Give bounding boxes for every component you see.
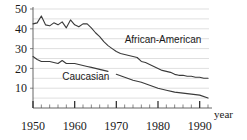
y-tick-label: 50: [15, 2, 27, 16]
series-line-african-american: [33, 16, 208, 78]
x-tick-labels: 19501960197019801990: [21, 119, 212, 133]
x-tick-label: 1990: [188, 119, 212, 133]
series-line-caucasian-segment-2: [116, 74, 208, 98]
data-series: [33, 16, 208, 98]
series-label-caucasian: Caucasian: [62, 71, 109, 82]
x-axis-title: year: [214, 108, 233, 120]
series-label-african-american: African-American: [125, 34, 202, 45]
x-tick-label: 1970: [104, 119, 128, 133]
y-tick-label: 10: [15, 81, 27, 95]
x-tick-label: 1960: [63, 119, 87, 133]
line-chart: 1020304050 19501960197019801990 African-…: [0, 0, 247, 140]
x-tick-label: 1980: [146, 119, 170, 133]
chart-container: 1020304050 19501960197019801990 African-…: [0, 0, 247, 140]
y-tick-label: 20: [15, 62, 27, 76]
y-tick-label: 30: [15, 42, 27, 56]
y-axis: [30, 7, 33, 108]
x-axis: [33, 101, 212, 108]
x-tick-label: 1950: [21, 119, 45, 133]
y-tick-labels: 1020304050: [15, 2, 27, 95]
y-tick-label: 40: [15, 22, 27, 36]
